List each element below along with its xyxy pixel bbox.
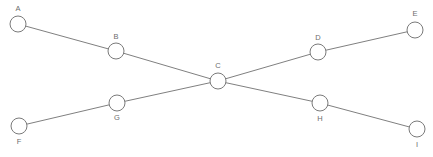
node-label-b: B [113,32,118,41]
node-h[interactable] [312,95,328,111]
node-f[interactable] [11,118,27,134]
edge-c-h [226,83,312,102]
edge-b-c [124,53,211,78]
node-label-f: F [17,137,22,146]
node-label-i: I [416,140,418,149]
node-label-a: A [15,4,20,13]
node-i[interactable] [409,121,425,137]
node-c[interactable] [210,73,226,89]
node-e[interactable] [407,22,423,38]
nodes-layer [10,16,425,137]
node-label-e: E [412,9,417,18]
node-d[interactable] [310,44,326,60]
edge-g-c [125,83,210,102]
edge-c-d [226,54,311,79]
node-label-c: C [215,61,221,70]
node-link-diagram: ABCDEFGHI [0,0,433,157]
node-g[interactable] [109,95,125,111]
node-label-d: D [315,33,321,42]
graph-canvas: ABCDEFGHI [0,0,433,157]
edge-d-e [326,32,407,50]
edge-f-g [27,105,109,124]
node-a[interactable] [10,16,26,32]
node-label-g: G [114,113,120,122]
node-b[interactable] [108,43,124,59]
node-label-h: H [317,114,322,123]
edge-a-b [26,26,109,49]
edge-h-i [328,105,410,127]
